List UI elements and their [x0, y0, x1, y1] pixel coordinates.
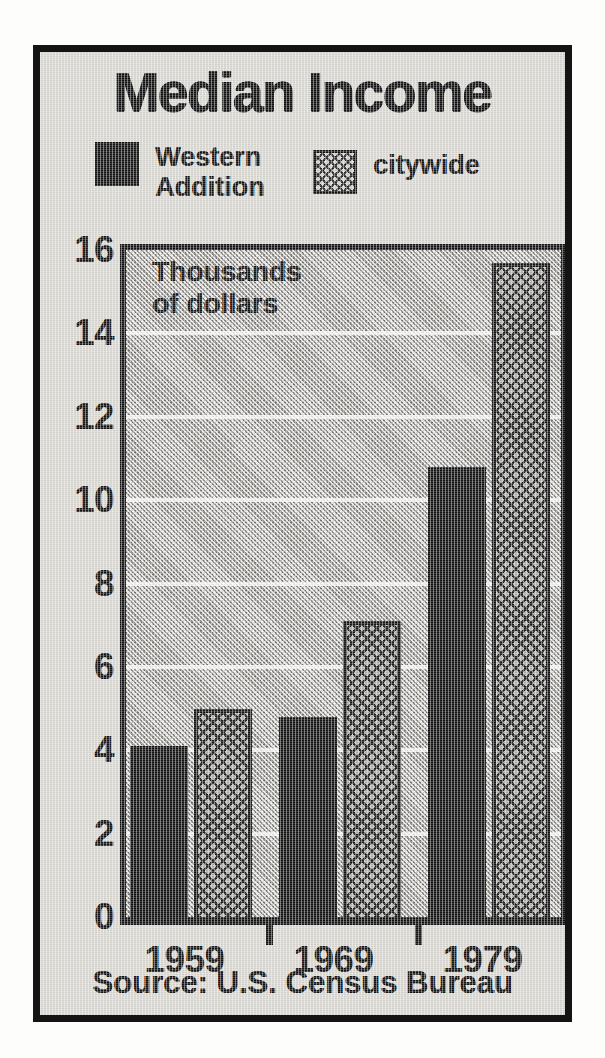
- legend-label-citywide: citywide: [373, 150, 480, 180]
- y-tick-label: 2: [94, 813, 114, 855]
- legend-item-citywide: citywide: [313, 150, 480, 194]
- plot-area: Thousands of dollars: [120, 244, 567, 925]
- y-tick-label: 16: [74, 229, 114, 271]
- bar-1969-citywide: [343, 621, 401, 917]
- chart-legend: Western Addition citywide: [95, 140, 525, 220]
- y-tick-label: 4: [94, 729, 114, 771]
- bar-1979-western-addition: [428, 467, 486, 917]
- x-tick-mark: [266, 925, 273, 945]
- chart-title: Median Income: [40, 65, 565, 120]
- legend-swatch-solid-icon: [95, 142, 139, 186]
- newspaper-page: Median Income Western Addition citywide …: [0, 0, 605, 1058]
- bars-layer: [126, 250, 561, 917]
- legend-label-western-addition: Western Addition: [155, 142, 264, 202]
- y-tick-label: 12: [74, 396, 114, 438]
- y-tick-label: 0: [94, 896, 114, 938]
- legend-item-western-addition: Western Addition: [95, 142, 264, 202]
- y-tick-label: 8: [94, 563, 114, 605]
- legend-swatch-crosshatch-icon: [313, 150, 357, 194]
- y-axis: 0246810121416: [40, 244, 120, 925]
- y-tick-label: 10: [74, 479, 114, 521]
- chart-figure-frame: Median Income Western Addition citywide …: [33, 45, 572, 1022]
- x-tick-mark: [415, 925, 422, 945]
- chart-plot-wrapper: 0246810121416 Thousands of dollars 19591…: [40, 244, 565, 944]
- bar-1959-citywide: [194, 709, 252, 917]
- y-tick-label: 14: [74, 312, 114, 354]
- plot-annotation-units: Thousands of dollars: [152, 256, 301, 320]
- bar-1959-western-addition: [130, 746, 188, 917]
- y-tick-label: 6: [94, 646, 114, 688]
- bar-1979-citywide: [492, 263, 550, 917]
- source-note: Source: U.S. Census Bureau: [40, 965, 565, 1001]
- bar-1969-western-addition: [279, 717, 337, 917]
